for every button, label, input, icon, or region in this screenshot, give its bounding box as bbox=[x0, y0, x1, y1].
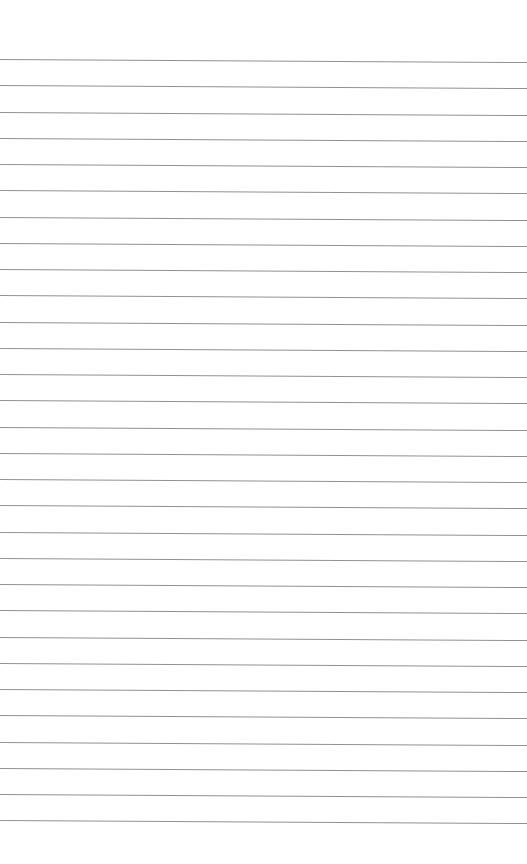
ruled-line bbox=[0, 217, 527, 221]
ruled-line bbox=[0, 138, 527, 142]
ruled-line bbox=[0, 85, 527, 89]
ruled-line bbox=[0, 637, 527, 641]
ruled-line bbox=[0, 610, 527, 614]
ruled-line bbox=[0, 715, 527, 719]
ruled-line bbox=[0, 190, 527, 194]
ruled-line bbox=[0, 243, 527, 247]
ruled-line bbox=[0, 400, 527, 404]
ruled-line bbox=[0, 689, 527, 693]
ruled-line bbox=[0, 768, 527, 772]
ruled-line bbox=[0, 742, 527, 746]
ruled-line bbox=[0, 348, 527, 352]
ruled-line bbox=[0, 295, 527, 299]
ruled-line bbox=[0, 584, 527, 588]
ruled-line bbox=[0, 269, 527, 273]
ruled-line bbox=[0, 532, 527, 536]
ruled-line bbox=[0, 820, 527, 824]
ruled-line bbox=[0, 794, 527, 798]
ruled-line bbox=[0, 479, 527, 483]
ruled-line bbox=[0, 663, 527, 667]
ruled-line bbox=[0, 505, 527, 509]
ruled-line bbox=[0, 164, 527, 168]
ruled-line bbox=[0, 322, 527, 326]
ruled-line bbox=[0, 558, 527, 562]
ruled-line bbox=[0, 453, 527, 457]
ruled-line bbox=[0, 59, 527, 63]
ruled-line bbox=[0, 374, 527, 378]
ruled-line bbox=[0, 112, 527, 116]
ruled-line bbox=[0, 427, 527, 431]
